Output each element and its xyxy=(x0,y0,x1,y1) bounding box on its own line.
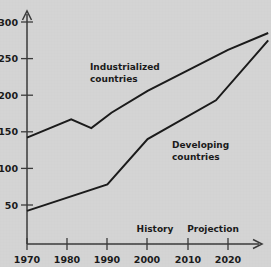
phase-label-history: History xyxy=(137,224,174,234)
x-tick-label-2010: 2010 xyxy=(175,254,202,265)
x-axis: 1970 1980 1990 2000 2010 2020 xyxy=(14,238,262,265)
series-line-industrialized-countries xyxy=(27,33,268,138)
line-chart: 300 250 200 150 100 50 1970 1980 1990 20… xyxy=(0,0,271,267)
phase-annotations: History Projection xyxy=(137,224,239,234)
y-tick-label-250: 250 xyxy=(0,53,18,64)
x-tick-label-1970: 1970 xyxy=(14,254,41,265)
x-tick-label-1990: 1990 xyxy=(94,254,121,265)
x-tick-label-2020: 2020 xyxy=(215,254,242,265)
series-label-developing-line2: countries xyxy=(172,152,220,162)
y-tick-label-300: 300 xyxy=(0,17,18,28)
x-tick-label-2000: 2000 xyxy=(134,254,161,265)
series-label-developing-line1: Developing xyxy=(172,140,229,150)
chart-container: 300 250 200 150 100 50 1970 1980 1990 20… xyxy=(0,0,271,267)
series-label-industrialized-line1: Industrialized xyxy=(90,62,160,72)
phase-label-projection: Projection xyxy=(187,224,239,234)
series-label-industrialized-line2: countries xyxy=(90,74,138,84)
y-tick-label-100: 100 xyxy=(0,163,18,174)
y-axis: 300 250 200 150 100 50 xyxy=(0,11,33,244)
y-tick-label-50: 50 xyxy=(5,200,19,211)
x-tick-label-1980: 1980 xyxy=(54,254,81,265)
y-tick-label-150: 150 xyxy=(0,126,18,137)
data-series-group xyxy=(27,33,268,211)
y-tick-label-200: 200 xyxy=(0,90,18,101)
